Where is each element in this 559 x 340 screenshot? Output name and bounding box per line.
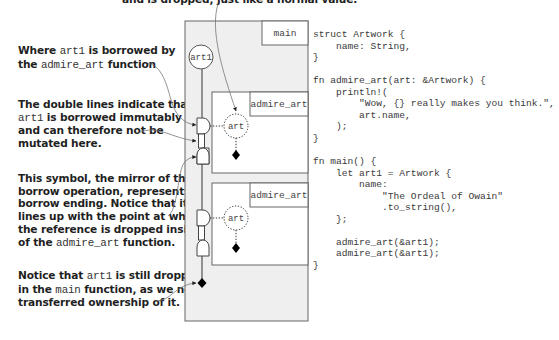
borrow-start-symbol-1	[197, 118, 210, 134]
code-line	[313, 225, 555, 237]
code-line	[313, 64, 555, 76]
code-line: };	[313, 214, 555, 226]
code-line: fn admire_art(art: &Artwork) {	[313, 75, 555, 87]
art-param-label-2: art	[228, 214, 244, 224]
borrow-diagram-figure: and is dropped, just like a normal value…	[0, 0, 559, 340]
admire-art-label-1: admire_art	[250, 99, 307, 110]
main-label: main	[274, 28, 297, 39]
art1-label: art1	[190, 53, 212, 63]
code-line: }	[313, 52, 555, 64]
code-line: }	[313, 260, 555, 272]
admire-art-label-2: admire_art	[250, 190, 307, 201]
rust-code-listing: struct Artwork { name: String,}fn admire…	[313, 29, 555, 271]
code-line: name: String,	[313, 41, 555, 53]
code-line: "Wow, {} really makes you think.",	[313, 98, 555, 110]
art-param-label-1: art	[228, 122, 244, 132]
code-line: );	[313, 121, 555, 133]
code-line: admire_art(&art1);	[313, 248, 555, 260]
code-line: println!(	[313, 87, 555, 99]
code-line: art.name,	[313, 110, 555, 122]
code-line	[313, 144, 555, 156]
immutable-borrow-double-line-2	[199, 226, 205, 240]
code-line: name:	[313, 179, 555, 191]
code-line: fn main() {	[313, 156, 555, 168]
code-line: admire_art(&art1);	[313, 237, 555, 249]
borrow-end-cap-1	[197, 148, 209, 164]
code-line: struct Artwork {	[313, 29, 555, 41]
code-line: let art1 = Artwork {	[313, 168, 555, 180]
borrow-end-symbol-2	[197, 240, 209, 256]
code-line: }	[313, 133, 555, 145]
code-line: "The Ordeal of Owain"	[313, 191, 555, 203]
borrow-start-symbol-2	[197, 210, 210, 226]
immutable-borrow-double-line-1	[199, 134, 205, 148]
code-line: .to_string(),	[313, 202, 555, 214]
